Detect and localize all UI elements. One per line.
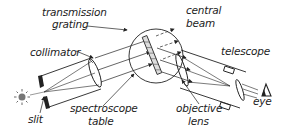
label-transmission: transmission xyxy=(42,6,107,18)
label-spectroscope: spectroscope xyxy=(70,102,138,114)
diagram-canvas: transmission grating collimator central … xyxy=(0,0,284,134)
labels: transmission grating collimator central … xyxy=(28,4,272,127)
diffracted-rays xyxy=(157,48,192,82)
transmission-grating xyxy=(142,36,162,75)
label-slit: slit xyxy=(28,113,44,125)
central-beam-rays xyxy=(156,29,181,59)
eyepiece-lens xyxy=(234,79,246,101)
label-grating: grating xyxy=(52,18,89,30)
leader-lines xyxy=(40,26,199,113)
parallel-rays xyxy=(95,40,152,82)
label-lens: lens xyxy=(188,115,209,127)
label-telescope: telescope xyxy=(221,45,270,57)
label-beam: beam xyxy=(186,17,215,29)
label-central: central xyxy=(186,4,222,16)
spectroscope-diagram: transmission grating collimator central … xyxy=(0,0,284,134)
light-source-icon xyxy=(14,89,30,105)
label-table: table xyxy=(88,115,114,127)
label-objective: objective xyxy=(176,102,222,114)
spectroscope-table xyxy=(129,29,183,83)
collimator-tube xyxy=(41,58,104,107)
label-eye: eye xyxy=(253,95,272,107)
slit-icon xyxy=(30,75,50,109)
label-collimator: collimator xyxy=(30,46,81,58)
